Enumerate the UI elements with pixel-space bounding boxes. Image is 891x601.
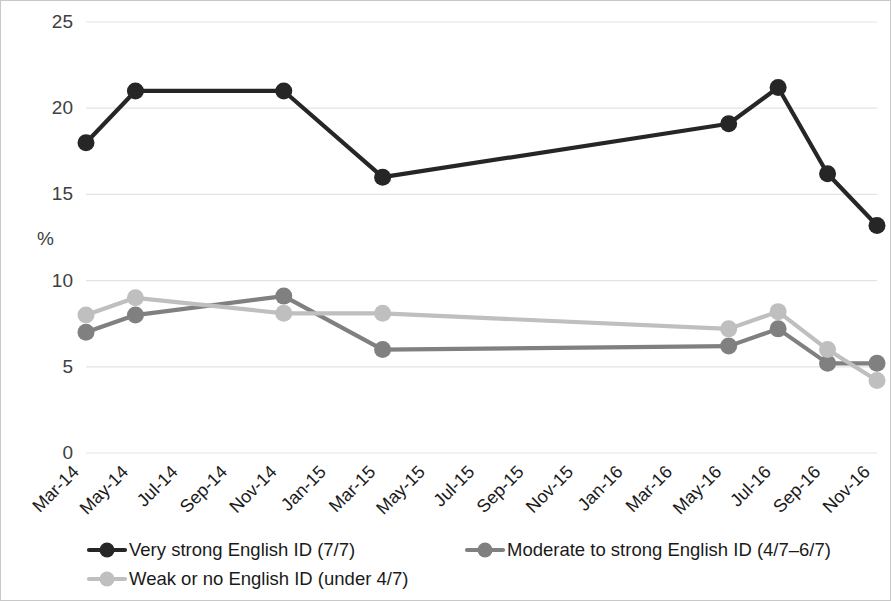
x-axis-tick-label: Nov-15 xyxy=(522,462,577,517)
x-axis-tick-label: Nov-14 xyxy=(225,462,280,517)
chart-container: 0510152025 % Mar-14May-14Jul-14Sep-14Nov… xyxy=(0,0,891,601)
y-axis-tick-label: 5 xyxy=(62,356,73,377)
y-axis-tick-label: 25 xyxy=(52,11,73,32)
legend-marker-swatch xyxy=(100,572,115,587)
x-axis-tick-label: Sep-15 xyxy=(473,462,528,517)
data-point-marker[interactable] xyxy=(770,320,787,337)
x-axis-tick-label: Jul-16 xyxy=(726,462,775,511)
data-point-marker[interactable] xyxy=(78,134,95,151)
y-axis-tick-label: 10 xyxy=(52,270,73,291)
y-axis-title: % xyxy=(37,228,54,249)
x-axis-tick-label: Mar-14 xyxy=(28,462,82,516)
x-axis-tick-label: Jul-14 xyxy=(133,462,182,511)
data-point-marker[interactable] xyxy=(869,372,886,389)
data-point-marker[interactable] xyxy=(78,307,95,324)
data-point-marker[interactable] xyxy=(720,320,737,337)
data-point-marker[interactable] xyxy=(127,289,144,306)
legend-item-label: Weak or no English ID (under 4/7) xyxy=(129,568,408,589)
legend-item[interactable]: Weak or no English ID (under 4/7) xyxy=(89,568,408,589)
data-point-marker[interactable] xyxy=(869,355,886,372)
x-axis-tick-label: Jul-15 xyxy=(430,462,479,511)
data-point-marker[interactable] xyxy=(275,82,292,99)
data-series-group xyxy=(78,79,886,389)
data-point-marker[interactable] xyxy=(275,288,292,305)
data-point-marker[interactable] xyxy=(819,341,836,358)
legend-item-label: Moderate to strong English ID (4/7–6/7) xyxy=(507,539,831,560)
data-point-marker[interactable] xyxy=(374,169,391,186)
data-point-marker[interactable] xyxy=(720,115,737,132)
data-point-marker[interactable] xyxy=(127,82,144,99)
line-chart-plot: 0510152025 % Mar-14May-14Jul-14Sep-14Nov… xyxy=(1,1,891,601)
data-point-marker[interactable] xyxy=(275,305,292,322)
y-axis-tick-label: 0 xyxy=(62,442,73,463)
data-point-marker[interactable] xyxy=(819,165,836,182)
gridlines-group xyxy=(86,22,877,453)
legend-marker-swatch xyxy=(100,543,115,558)
data-point-marker[interactable] xyxy=(78,324,95,341)
data-point-marker[interactable] xyxy=(770,303,787,320)
x-axis-tick-label: Nov-16 xyxy=(819,462,874,517)
x-axis-tick-label: Mar-15 xyxy=(325,462,379,516)
x-axis-tick-labels: Mar-14May-14Jul-14Sep-14Nov-14Jan-15Mar-… xyxy=(28,462,873,519)
x-axis-tick-label: Mar-16 xyxy=(622,462,676,516)
x-axis-tick-label: Jan-15 xyxy=(277,462,330,515)
series-2 xyxy=(78,288,886,372)
legend-item[interactable]: Very strong English ID (7/7) xyxy=(89,539,355,560)
data-point-marker[interactable] xyxy=(869,217,886,234)
x-axis-tick-label: May-14 xyxy=(76,462,133,519)
series-line xyxy=(86,298,877,381)
y-axis-tick-labels: 0510152025 xyxy=(52,11,73,463)
x-axis-tick-label: Sep-14 xyxy=(176,462,231,517)
x-axis-tick-label: May-16 xyxy=(669,462,726,519)
y-axis-tick-label: 20 xyxy=(52,97,73,118)
x-axis-tick-label: Sep-16 xyxy=(769,462,824,517)
data-point-marker[interactable] xyxy=(127,307,144,324)
x-axis-tick-label: Jan-16 xyxy=(574,462,627,515)
series-1 xyxy=(78,79,886,234)
data-point-marker[interactable] xyxy=(374,341,391,358)
chart-legend: Very strong English ID (7/7)Moderate to … xyxy=(89,539,831,589)
x-axis-tick-label: May-15 xyxy=(372,462,429,519)
series-3 xyxy=(78,289,886,389)
legend-item[interactable]: Moderate to strong English ID (4/7–6/7) xyxy=(467,539,831,560)
legend-item-label: Very strong English ID (7/7) xyxy=(129,539,355,560)
data-point-marker[interactable] xyxy=(770,79,787,96)
legend-marker-swatch xyxy=(478,543,493,558)
data-point-marker[interactable] xyxy=(720,338,737,355)
data-point-marker[interactable] xyxy=(374,305,391,322)
y-axis-tick-label: 15 xyxy=(52,183,73,204)
